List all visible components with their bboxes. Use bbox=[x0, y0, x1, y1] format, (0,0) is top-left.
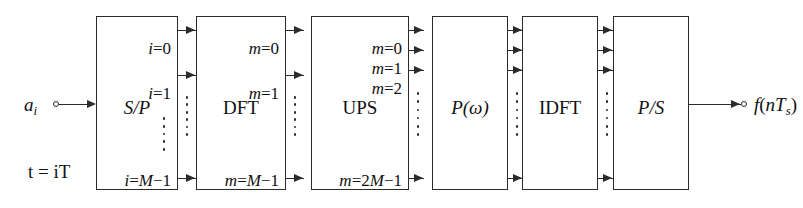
block-dft-port-2: m=M−1 bbox=[225, 172, 279, 189]
block-idft: IDFT bbox=[522, 16, 598, 190]
bus-dft-ups-arrowhead-1-icon bbox=[294, 71, 303, 79]
input-arrowhead-icon bbox=[87, 100, 96, 108]
output-terminal-dot bbox=[741, 101, 747, 107]
block-ups-port-1: m=1 bbox=[372, 60, 402, 77]
block-ups-port-3: m=2M−1 bbox=[339, 172, 402, 189]
bus-idft-ps-arrowhead-2-icon bbox=[603, 66, 612, 74]
bus-ups-pw-arrowhead-2-icon bbox=[414, 66, 423, 74]
block-sp-label: S/P bbox=[97, 98, 177, 117]
bus-ups-pw-arrowhead-3-icon bbox=[414, 174, 423, 182]
block-diagram-canvas: ai t = iT i=0 i=1 i=M−1 S/P m=0 m=1 m=M−… bbox=[0, 0, 803, 208]
block-pw: P(ω) bbox=[432, 16, 508, 190]
input-wire bbox=[59, 104, 88, 105]
bus-idft-ps-arrowhead-0-icon bbox=[603, 26, 612, 34]
bus-pw-idft-arrowhead-3-icon bbox=[513, 174, 522, 182]
bus-idft-ps-arrowhead-3-icon bbox=[603, 174, 612, 182]
bus-sp-dft-ellipsis-icon bbox=[184, 96, 190, 136]
bus-idft-ps-arrowhead-1-icon bbox=[603, 46, 612, 54]
bus-dft-ups-arrowhead-2-icon bbox=[294, 174, 303, 182]
bus-ups-pw-arrowhead-1-icon bbox=[414, 46, 423, 54]
block-dft-port-0: m=0 bbox=[249, 40, 279, 57]
input-time-label: t = iT bbox=[28, 162, 70, 181]
block-dft: m=0 m=1 m=M−1 DFT bbox=[196, 16, 286, 190]
block-dft-label: DFT bbox=[197, 98, 285, 117]
bus-ups-pw-arrowhead-0-icon bbox=[414, 26, 423, 34]
output-arrowhead-icon bbox=[731, 100, 740, 108]
block-sp: i=0 i=1 i=M−1 S/P bbox=[96, 16, 178, 190]
block-ups-port-2: m=2 bbox=[372, 80, 402, 97]
bus-pw-idft-arrowhead-0-icon bbox=[513, 26, 522, 34]
bus-sp-dft-arrowhead-1-icon bbox=[186, 71, 195, 79]
bus-sp-dft-arrowhead-0-icon bbox=[186, 26, 195, 34]
block-idft-label: IDFT bbox=[523, 98, 597, 117]
bus-idft-ps-ellipsis-icon bbox=[604, 92, 610, 136]
block-pw-label: P(ω) bbox=[433, 98, 507, 117]
bus-pw-idft-arrowhead-2-icon bbox=[513, 66, 522, 74]
block-sp-port-2: i=M−1 bbox=[124, 172, 171, 189]
block-ps-label: P/S bbox=[614, 98, 688, 117]
bus-pw-idft-ellipsis-icon bbox=[514, 92, 520, 136]
bus-ups-pw-ellipsis-icon bbox=[415, 92, 421, 136]
block-ups-port-0: m=0 bbox=[372, 40, 402, 57]
block-ps: P/S bbox=[613, 16, 689, 190]
block-sp-ellipsis-icon bbox=[161, 117, 167, 151]
bus-sp-dft-arrowhead-2-icon bbox=[186, 174, 195, 182]
block-ups-label: UPS bbox=[312, 98, 408, 117]
block-ups: m=0 m=1 m=2 m=2M−1 UPS bbox=[311, 16, 409, 190]
block-sp-port-0: i=0 bbox=[148, 40, 171, 57]
bus-dft-ups-ellipsis-icon bbox=[292, 96, 298, 136]
input-signal-label: ai bbox=[24, 95, 37, 118]
output-signal-label: f(nTs) bbox=[754, 95, 797, 118]
bus-pw-idft-arrowhead-1-icon bbox=[513, 46, 522, 54]
bus-dft-ups-arrowhead-0-icon bbox=[294, 26, 303, 34]
